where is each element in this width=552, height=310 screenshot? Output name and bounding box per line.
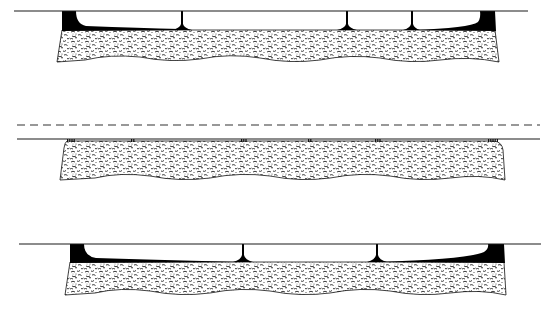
end-wedge-right — [412, 11, 496, 31]
spokes-top — [172, 11, 420, 30]
asperity-marker — [488, 139, 489, 142]
spoke — [233, 244, 253, 262]
panel-top — [14, 11, 528, 62]
contact-diagram-figure — [0, 0, 552, 310]
asperity-marker — [492, 139, 493, 142]
textured-body-top — [57, 30, 499, 62]
asperity-marker — [67, 139, 68, 142]
asperity-marker — [308, 139, 309, 142]
panel-middle — [17, 125, 540, 180]
spoke — [337, 11, 357, 30]
asperity-marker — [74, 139, 75, 142]
asperity-marker — [131, 139, 132, 142]
asperity-marker — [310, 139, 311, 142]
asperity-marker — [379, 139, 380, 142]
asperity-marker — [71, 139, 72, 142]
asperity-marker — [377, 139, 378, 142]
textured-body-bottom — [65, 262, 506, 295]
asperity-marker — [245, 139, 246, 142]
spoke — [367, 244, 387, 262]
asperity-marker — [243, 139, 244, 142]
spoke — [172, 11, 192, 30]
asperity-marker — [375, 139, 376, 142]
end-wedge-left — [62, 11, 182, 31]
end-wedge-right — [378, 244, 505, 263]
spokes-bottom — [233, 244, 387, 262]
spoke — [403, 11, 420, 30]
asperity-marker — [497, 139, 498, 142]
diagram-canvas — [0, 0, 552, 310]
asperity-marker — [495, 139, 496, 142]
asperity-marker — [69, 139, 70, 142]
asperity-marker — [490, 139, 491, 142]
end-wedge-left — [70, 244, 242, 263]
asperity-marker — [133, 139, 134, 142]
panel-bottom — [19, 244, 541, 295]
textured-body-middle — [60, 141, 505, 180]
asperity-marker — [241, 139, 242, 142]
